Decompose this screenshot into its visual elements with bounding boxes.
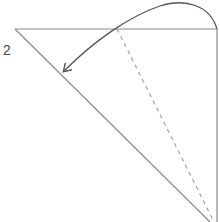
step-number-label: 2 (3, 42, 11, 58)
curved-arrow-icon (64, 3, 217, 71)
diagonal-edge (15, 29, 210, 222)
fold-line-dashed (117, 29, 214, 222)
folding-diagram: 2 (0, 0, 219, 222)
